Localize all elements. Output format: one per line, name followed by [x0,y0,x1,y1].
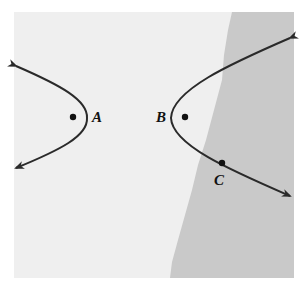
point-c-dot [219,160,225,166]
focus-b-dot [182,114,188,120]
hyperbola-diagram [0,0,304,286]
label-b: B [156,110,166,125]
label-a: A [92,110,102,125]
left-branch-curve [16,66,87,168]
focus-a-dot [70,114,76,120]
label-c: C [214,173,224,188]
